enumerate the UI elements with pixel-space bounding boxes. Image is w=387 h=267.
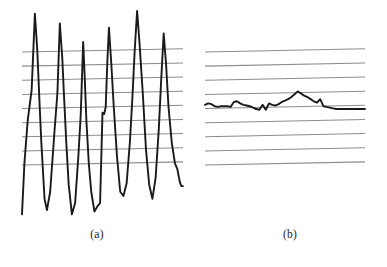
gridline (22, 162, 183, 165)
panel-a-svg (0, 0, 194, 225)
gridline (205, 119, 365, 122)
panel-b-caption: (b) (193, 228, 387, 240)
figure-root: (a) (b) (0, 0, 387, 267)
panel-b: (b) (193, 0, 387, 240)
panel-a-signal (22, 11, 183, 215)
gridline (22, 63, 183, 66)
gridline (205, 49, 365, 52)
gridline (22, 105, 183, 108)
panel-b-svg (193, 0, 387, 225)
gridline (22, 77, 183, 80)
gridline (205, 134, 365, 137)
panel-a-plot (0, 0, 194, 225)
gridline (205, 63, 365, 66)
gridline (22, 49, 183, 52)
panel-a: (a) (0, 0, 194, 240)
gridline (205, 162, 365, 165)
gridline (205, 148, 365, 151)
gridline (205, 77, 365, 80)
signal-a-line (22, 11, 183, 215)
panel-a-caption: (a) (0, 228, 194, 240)
panel-b-plot (193, 0, 387, 225)
gridline (22, 91, 183, 94)
gridline (22, 148, 183, 151)
gridline (205, 91, 365, 94)
